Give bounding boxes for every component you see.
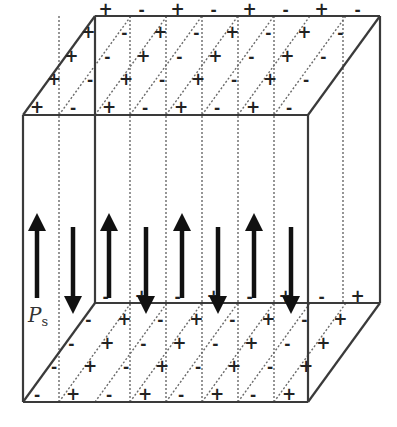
minus-charge: - (354, 1, 360, 19)
plus-charge: + (66, 384, 80, 404)
minus-charge: - (284, 335, 290, 353)
minus-charge: - (121, 24, 127, 42)
plus-charge: + (297, 22, 311, 42)
minus-charge: - (70, 99, 76, 117)
plus-charge: + (314, 0, 328, 19)
plus-charge: + (246, 97, 260, 117)
minus-charge: - (106, 386, 112, 404)
plus-charge: + (208, 46, 222, 66)
minus-charge: - (250, 386, 256, 404)
minus-charge: - (178, 386, 184, 404)
minus-charge: - (318, 288, 324, 306)
plus-charge: + (280, 46, 294, 66)
plus-charge: + (64, 46, 78, 66)
plus-charge: + (170, 0, 184, 19)
minus-charge: - (229, 311, 235, 329)
plus-charge: + (189, 309, 203, 329)
minus-charge: - (248, 48, 254, 66)
plus-charge: + (244, 333, 258, 353)
minus-charge: - (282, 1, 288, 19)
plus-charge: + (172, 333, 186, 353)
minus-charge: - (87, 71, 93, 89)
polarization-arrows (37, 222, 291, 305)
plus-charge: + (102, 97, 116, 117)
plus-charge: + (119, 69, 133, 89)
minus-charge: - (267, 358, 273, 376)
plus-charge: + (299, 356, 313, 376)
plus-charge: + (138, 384, 152, 404)
minus-charge: - (303, 71, 309, 89)
plus-charge: + (47, 69, 61, 89)
minus-charge: - (286, 99, 292, 117)
plus-charge: + (30, 97, 44, 117)
minus-charge: - (337, 24, 343, 42)
minus-charge: - (193, 24, 199, 42)
plus-charge: + (333, 309, 347, 329)
minus-charge: - (320, 48, 326, 66)
minus-charge: - (214, 99, 220, 117)
minus-charge: - (34, 386, 40, 404)
plus-charge: + (261, 309, 275, 329)
minus-charge: - (195, 358, 201, 376)
plus-charge: + (100, 333, 114, 353)
plus-charge: + (83, 356, 97, 376)
minus-charge: - (138, 1, 144, 19)
top-surface-charges: +++++-----+++++-----+++++-----+++++----- (30, 0, 361, 117)
polarization-label: Ps (27, 303, 48, 329)
minus-charge: - (85, 311, 91, 329)
plus-charge: + (117, 309, 131, 329)
minus-charge: - (51, 358, 57, 376)
minus-charge: - (68, 335, 74, 353)
plus-charge: + (81, 22, 95, 42)
minus-charge: - (265, 24, 271, 42)
minus-charge: - (231, 71, 237, 89)
minus-charge: - (301, 311, 307, 329)
plus-charge: + (282, 384, 296, 404)
plus-charge: + (225, 22, 239, 42)
box-edge (308, 16, 380, 115)
plus-charge: + (227, 356, 241, 376)
plus-charge: + (98, 0, 112, 19)
minus-charge: - (210, 1, 216, 19)
minus-charge: - (142, 99, 148, 117)
plus-charge: + (174, 97, 188, 117)
ferroelectric-domain-diagram: +++++-----+++++-----+++++-----+++++-----… (0, 0, 397, 427)
plus-charge: + (263, 69, 277, 89)
minus-charge: - (123, 358, 129, 376)
minus-charge: - (157, 311, 163, 329)
minus-charge: - (212, 335, 218, 353)
plus-charge: + (191, 69, 205, 89)
minus-charge: - (104, 48, 110, 66)
minus-charge: - (176, 48, 182, 66)
plus-charge: + (210, 384, 224, 404)
plus-charge: + (316, 333, 330, 353)
plus-charge: + (242, 0, 256, 19)
plus-charge: + (350, 286, 364, 306)
minus-charge: - (140, 335, 146, 353)
plus-charge: + (136, 46, 150, 66)
plus-charge: + (153, 22, 167, 42)
minus-charge: - (159, 71, 165, 89)
plus-charge: + (155, 356, 169, 376)
